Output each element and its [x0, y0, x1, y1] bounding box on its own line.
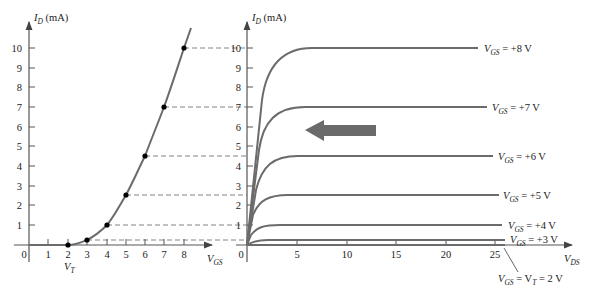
- transfer-points: [65, 45, 186, 247]
- label-vgs-2-leader: [504, 248, 518, 272]
- y-tick-1: 1: [17, 220, 22, 231]
- y-tick-7: 7: [236, 102, 241, 113]
- x-tick-3: 3: [84, 249, 89, 260]
- threshold-label: VT: [64, 261, 75, 275]
- label-vgs-7: VGS = +7 V: [492, 102, 540, 116]
- y-tick-5: 5: [236, 141, 241, 152]
- projection-dashes: [87, 48, 247, 240]
- x-tick-1: 1: [45, 249, 50, 260]
- drain-curves: [247, 48, 505, 245]
- y-tick-5: 5: [17, 141, 22, 152]
- y-tick-6: 6: [236, 122, 241, 133]
- x-tick-5: 5: [294, 249, 299, 260]
- transfer-y-tick-labels: 1 2 3 4 5 6 7 8 9 10: [12, 43, 23, 231]
- y-tick-4: 4: [17, 161, 23, 172]
- drain-plot: 1 2 3 4 5 6 7 8 9 10 0 5 10 15 20 25: [231, 12, 580, 287]
- label-vgs-3: VGS = +3 V: [510, 234, 558, 248]
- label-vgs-2: VGS = VT = 2 V: [498, 273, 563, 287]
- x-tick-15: 15: [391, 249, 402, 260]
- curve-vgs-4: [247, 225, 502, 245]
- x-tick-4: 4: [104, 249, 110, 260]
- y-tick-8: 8: [17, 82, 22, 93]
- x-tick-7: 7: [161, 249, 166, 260]
- label-vgs-6: VGS = +6 V: [498, 151, 546, 165]
- drain-x-axis-title: VDS: [564, 253, 580, 267]
- label-vgs-4: VGS = +4 V: [508, 220, 556, 234]
- transfer-x-axis-title: VGS: [207, 253, 223, 267]
- x-tick-25: 25: [490, 249, 501, 260]
- x-tick-6: 6: [142, 249, 147, 260]
- y-tick-3: 3: [17, 181, 22, 192]
- y-tick-7: 7: [17, 102, 22, 113]
- y-tick-10: 10: [12, 43, 23, 54]
- curve-vgs-8: [247, 48, 478, 245]
- chart-figure: 1 2 3 4 5 6 7 8 9 10 0 1 2 3 4: [0, 0, 590, 291]
- transfer-plot: 1 2 3 4 5 6 7 8 9 10 0 1 2 3 4: [12, 12, 248, 275]
- x-tick-10: 10: [342, 249, 353, 260]
- transfer-y-axis-title: ID (mA): [33, 12, 69, 26]
- y-tick-4: 4: [236, 161, 242, 172]
- y-tick-2: 2: [236, 200, 241, 211]
- transfer-y-ticks: [29, 48, 35, 225]
- y-tick-8: 8: [236, 82, 241, 93]
- curve-vgs-5: [247, 195, 499, 245]
- y-tick-9: 9: [236, 63, 241, 74]
- transfer-x-tick-labels: 0 1 2 3 4 5 6 7 8: [21, 249, 186, 260]
- drain-x-tick-labels: 0 5 10 15 20 25: [238, 249, 500, 260]
- y-tick-3: 3: [236, 181, 241, 192]
- y-tick-6: 6: [17, 122, 22, 133]
- y-tick-9: 9: [17, 63, 22, 74]
- x-tick-20: 20: [441, 249, 452, 260]
- left-arrow-icon: [305, 120, 376, 141]
- x-tick-0: 0: [238, 249, 243, 260]
- x-tick-0: 0: [21, 249, 26, 260]
- y-tick-10: 10: [231, 43, 242, 54]
- x-tick-2: 2: [65, 249, 70, 260]
- drain-y-tick-labels: 1 2 3 4 5 6 7 8 9 10: [231, 43, 242, 231]
- y-tick-1: 1: [236, 220, 241, 231]
- label-vgs-8: VGS = +8 V: [484, 43, 532, 57]
- y-tick-2: 2: [17, 200, 22, 211]
- transfer-curve: [29, 28, 191, 245]
- label-vgs-5: VGS = +5 V: [503, 190, 551, 204]
- x-tick-8: 8: [181, 249, 186, 260]
- x-tick-5: 5: [123, 249, 128, 260]
- curve-vgs-6: [247, 156, 493, 245]
- drain-y-axis-title: ID (mA): [251, 12, 287, 26]
